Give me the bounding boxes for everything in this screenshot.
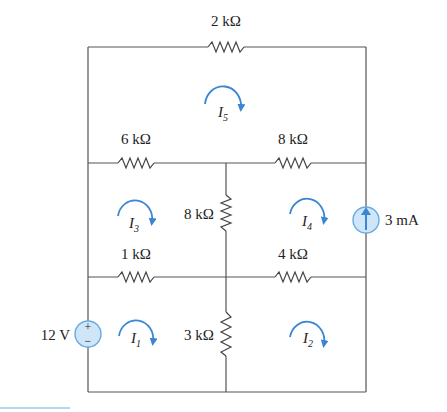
label-3ma: 3 mA [385, 212, 419, 228]
label-1k: 1 kΩ [121, 246, 151, 262]
svg-text:I5: I5 [217, 104, 228, 123]
minus-sign: − [85, 334, 92, 348]
label-12v: 12 V [41, 327, 70, 343]
circuit-diagram: 2 kΩ 6 kΩ 8 kΩ 8 kΩ 1 kΩ 4 kΩ 3 kΩ + − 1… [0, 0, 447, 412]
svg-text:I2: I2 [302, 330, 313, 349]
resistor-8k-center [221, 195, 231, 231]
plus-sign: + [85, 320, 92, 334]
loop-i3: I3 [118, 200, 152, 234]
loop-i1: I1 [119, 320, 153, 349]
svg-text:I3: I3 [128, 215, 139, 234]
resistor-3k-center [221, 312, 231, 356]
voltage-source-12v: + − [75, 320, 101, 348]
resistor-6k [118, 158, 154, 168]
loop-i4: I4 [290, 199, 324, 232]
label-3k: 3 kΩ [184, 327, 214, 343]
loop-i5: I5 [205, 86, 241, 123]
loop-i2: I2 [290, 322, 324, 349]
resistor-1k [118, 272, 154, 282]
resistor-4k [275, 272, 311, 282]
label-6k: 6 kΩ [121, 131, 151, 147]
svg-text:I4: I4 [301, 213, 312, 232]
current-source-3ma [353, 207, 379, 233]
label-8k-center: 8 kΩ [184, 206, 214, 222]
label-2k: 2 kΩ [211, 13, 241, 29]
label-8k-top-right: 8 kΩ [278, 131, 308, 147]
resistor-2k [208, 42, 244, 52]
svg-text:I1: I1 [130, 330, 141, 349]
label-4k: 4 kΩ [278, 246, 308, 262]
resistor-8k-top-right [275, 158, 311, 168]
